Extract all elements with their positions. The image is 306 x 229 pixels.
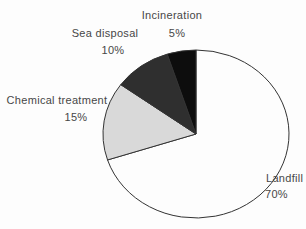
slice-value-sea-disposal: 10%	[102, 45, 125, 56]
slice-value-landfill: 70%	[265, 189, 288, 200]
slice-label-landfill: Landfill	[266, 173, 303, 184]
slice-value-incineration: 5%	[169, 28, 186, 39]
slice-value-chemical-treatment: 15%	[65, 112, 88, 123]
slice-label-incineration: Incineration	[142, 10, 202, 21]
slice-label-sea-disposal: Sea disposal	[72, 28, 139, 39]
pie-slices	[103, 50, 289, 218]
slice-label-chemical-treatment: Chemical treatment	[7, 95, 108, 106]
pie-chart-svg	[0, 0, 306, 229]
pie-chart-figure: Incineration 5% Sea disposal 10% Chemica…	[0, 0, 306, 229]
